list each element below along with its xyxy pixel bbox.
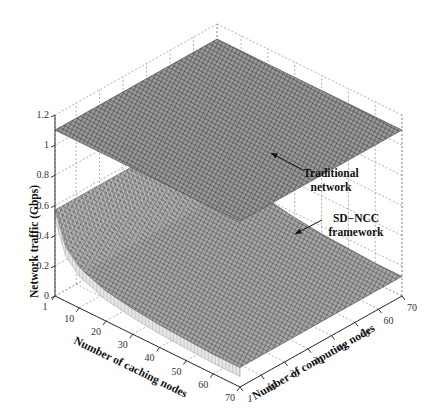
annotation-traditional-line1: Traditional (303, 167, 358, 179)
z-tick-label: 0.8 (37, 169, 50, 180)
y-tick (308, 349, 311, 353)
x-tick-label: 20 (91, 326, 101, 337)
x-tick-label: 50 (171, 366, 181, 377)
x-tick-label: 1 (43, 301, 48, 312)
x-tick-label: 60 (198, 379, 208, 390)
x-tick (130, 334, 133, 338)
z-tick (51, 175, 55, 177)
y-tick (332, 336, 335, 340)
x-tick-label: 70 (225, 392, 235, 403)
z-tick-label: 1 (44, 139, 49, 150)
x-tick-label: 10 (64, 313, 74, 324)
x-tick (103, 321, 106, 325)
y-tick (402, 296, 405, 300)
z-tick-label: 1.2 (37, 109, 50, 120)
y-tick (261, 375, 264, 379)
surface-plot: 00.20.40.60.811.211020304050607011020304… (0, 0, 438, 413)
z-axis-label: Network traffic (Gbps) (28, 185, 41, 298)
x-tick-label: 30 (118, 339, 128, 350)
x-tick-label: 40 (145, 352, 155, 363)
y-tick (285, 362, 288, 366)
z-tick (51, 115, 55, 117)
y-tick (240, 387, 243, 391)
z-tick (51, 266, 55, 268)
x-tick (210, 374, 213, 378)
annotation-sdncc-line2: framework (329, 226, 385, 238)
y-tick (355, 322, 358, 326)
annotation-traditional-line2: network (311, 181, 352, 193)
x-tick (157, 347, 160, 351)
x-tick (76, 308, 79, 312)
z-tick (51, 236, 55, 238)
z-tick (51, 145, 55, 147)
z-tick-label: 0 (44, 290, 49, 301)
x-tick (183, 361, 186, 365)
y-tick-label: 70 (407, 302, 417, 313)
z-tick (51, 206, 55, 208)
annotation-sdncc-line1: SD−NCC (333, 212, 379, 224)
x-tick (237, 387, 240, 391)
y-tick (379, 309, 382, 313)
y-tick-label: 60 (384, 315, 394, 326)
